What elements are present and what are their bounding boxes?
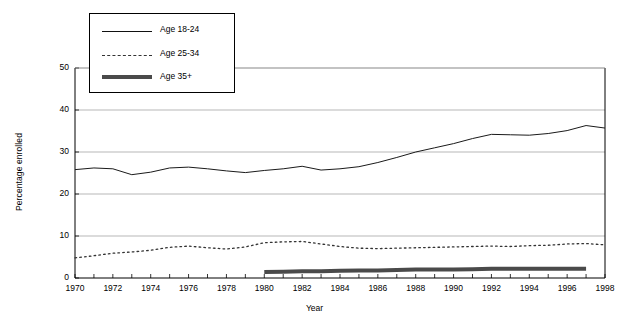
legend-label: Age 35+	[160, 71, 192, 81]
y-axis-title: Percentage enrolled	[14, 0, 24, 120]
legend-entry-age-35-plus: Age 35+	[90, 67, 234, 89]
x-tick-label: 1972	[93, 284, 133, 293]
legend-entry-age-18-24: Age 18-24	[90, 20, 234, 42]
legend-entry-age-25-34: Age 25-34	[90, 44, 234, 66]
y-tick-label: 50	[43, 63, 69, 72]
y-tick-label: 10	[43, 231, 69, 240]
x-axis-title: Year	[0, 303, 629, 313]
x-tick-label: 1982	[282, 284, 322, 293]
x-tick-label: 1992	[471, 284, 511, 293]
x-tick-label: 1988	[396, 284, 436, 293]
x-tick-label: 1978	[206, 284, 246, 293]
x-tick-marks	[75, 68, 605, 278]
chart-legend: Age 18-24 Age 25-34 Age 35+	[89, 13, 235, 93]
legend-label: Age 18-24	[160, 24, 199, 34]
x-tick-label: 1980	[244, 284, 284, 293]
x-tick-label: 1974	[131, 284, 171, 293]
legend-swatch-dotted-line-icon	[102, 55, 152, 56]
x-tick-label: 1998	[585, 284, 625, 293]
legend-label: Age 25-34	[160, 48, 199, 58]
y-tick-label: 0	[43, 273, 69, 282]
y-tick-label: 30	[43, 147, 69, 156]
x-tick-label: 1996	[547, 284, 587, 293]
series-layer	[75, 126, 605, 273]
y-tick-label: 40	[43, 105, 69, 114]
gridlines	[75, 68, 605, 236]
axis-lines	[75, 68, 605, 278]
x-tick-label: 1984	[320, 284, 360, 293]
legend-swatch-thick-line-icon	[102, 75, 152, 79]
x-tick-label: 1976	[169, 284, 209, 293]
chart-container: Percentage enrolled Year 50403020100 197…	[0, 0, 629, 324]
x-tick-label: 1994	[509, 284, 549, 293]
x-tick-label: 1986	[358, 284, 398, 293]
y-axis-title-text: Percentage enrolled	[14, 112, 24, 232]
legend-swatch-solid-line-icon	[102, 31, 152, 32]
x-tick-label: 1970	[55, 284, 95, 293]
x-tick-label: 1990	[434, 284, 474, 293]
y-tick-label: 20	[43, 189, 69, 198]
